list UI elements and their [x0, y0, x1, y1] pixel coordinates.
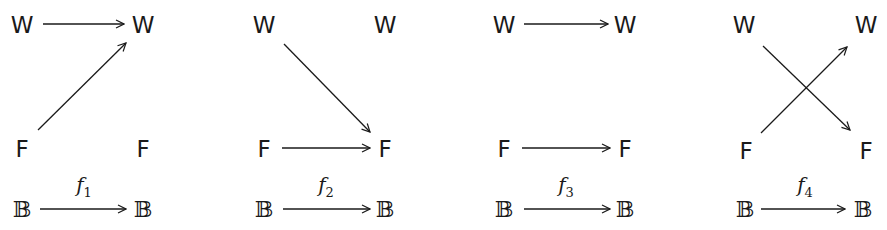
node-w-right: W	[374, 14, 397, 37]
map-label: f4	[797, 175, 813, 199]
node-b-right: 𝔹	[616, 199, 635, 221]
node-b-left: 𝔹	[495, 199, 514, 221]
node-b-left: 𝔹	[736, 199, 755, 221]
node-w-left: W	[493, 14, 516, 37]
arrow-f-to-w	[761, 47, 847, 133]
map-label: f3	[558, 175, 574, 199]
node-f-left: F	[257, 138, 270, 161]
node-b-left: 𝔹	[255, 199, 274, 221]
map-label: f1	[76, 175, 92, 199]
node-f-left: F	[739, 140, 752, 163]
node-f-right: F	[378, 138, 391, 161]
node-f-left: F	[15, 138, 28, 161]
node-f-right: F	[618, 138, 631, 161]
arrow-w-to-f	[284, 44, 370, 132]
node-w-right: W	[614, 14, 637, 37]
node-f-right: F	[136, 138, 149, 161]
node-f-right: F	[859, 140, 872, 163]
node-b-right: 𝔹	[134, 199, 153, 221]
node-w-left: W	[11, 14, 34, 37]
node-w-left: W	[253, 14, 276, 37]
map-label: f2	[318, 175, 334, 199]
node-b-right: 𝔹	[376, 199, 395, 221]
node-b-right: 𝔹	[854, 199, 873, 221]
node-w-left: W	[733, 14, 756, 37]
node-f-left: F	[497, 138, 510, 161]
node-w-right: W	[855, 14, 878, 37]
node-b-left: 𝔹	[13, 199, 32, 221]
node-w-right: W	[132, 14, 155, 37]
arrow-f-to-w	[38, 43, 126, 130]
